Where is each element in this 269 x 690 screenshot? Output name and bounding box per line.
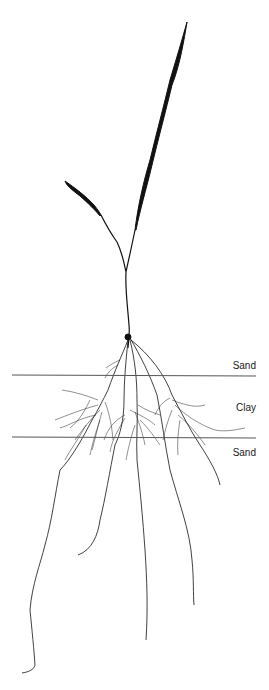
plant-shoot — [65, 22, 187, 348]
layer-label-clay: Clay — [236, 402, 256, 413]
main-root-5 — [131, 340, 220, 485]
main-root-1 — [22, 340, 128, 673]
layer-label-top-sand: Sand — [233, 360, 256, 371]
layer-label-bottom-sand: Sand — [233, 447, 256, 458]
stem — [101, 215, 135, 348]
clay-sand-boundary — [12, 437, 256, 438]
long-leaf — [135, 22, 187, 230]
root-system — [22, 338, 220, 673]
root-diagram — [0, 0, 269, 690]
sand-clay-boundary — [12, 375, 256, 376]
main-root-3 — [130, 340, 147, 640]
main-root-2 — [78, 340, 128, 555]
short-leaf — [65, 181, 101, 216]
main-root-4 — [130, 338, 194, 605]
root-crown — [125, 334, 131, 340]
